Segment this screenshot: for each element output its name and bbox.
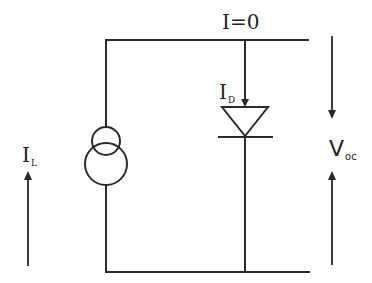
source-current-sub: L: [31, 158, 37, 168]
source-current-label: IL: [22, 145, 37, 165]
source-current-arrow-icon: [24, 171, 32, 266]
voltage-arrow-top-icon: [328, 36, 336, 119]
diode-current-sub: D: [228, 95, 235, 105]
current-source-small-circle: [92, 127, 120, 155]
top-current-text: I=0: [222, 10, 259, 34]
diode-icon: [218, 107, 273, 137]
diode-current-label: ID: [219, 82, 235, 102]
circuit-svg: [0, 0, 372, 283]
voltage-arrow-bottom-icon: [328, 171, 336, 265]
open-circuit-voltage-sub: oc: [345, 151, 357, 162]
diode-triangle: [222, 107, 268, 136]
diode-current-main: I: [219, 80, 227, 104]
diode-current-arrow-head: [241, 99, 249, 107]
top-current-label: I=0: [222, 12, 259, 32]
voltage-arrow-bottom-head: [328, 171, 336, 180]
voltage-arrow-top-head: [328, 110, 336, 119]
source-current-arrow-head: [24, 171, 32, 180]
open-circuit-voltage-label: Voc: [329, 138, 357, 160]
open-circuit-voltage-main: V: [329, 136, 344, 161]
current-source-large-circle: [85, 143, 127, 185]
current-source-icon: [85, 127, 127, 185]
source-current-main: I: [22, 143, 30, 167]
